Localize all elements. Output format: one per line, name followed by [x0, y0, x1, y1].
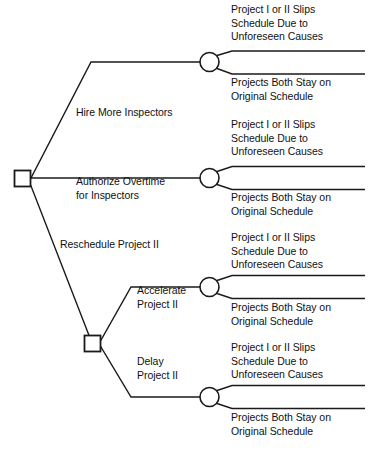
chance-node-3[interactable]	[200, 278, 219, 297]
outcome-line-stay-4	[217, 404, 365, 409]
chance-node-1[interactable]	[200, 53, 219, 72]
chance-node-4[interactable]	[200, 388, 219, 407]
outcome-label-stay-2: Projects Both Stay on Original Schedule	[231, 191, 331, 218]
outcome-label-slip-4: Project I or II Slips Schedule Due to Un…	[231, 341, 323, 382]
outcome-label-stay-4: Projects Both Stay on Original Schedule	[231, 411, 331, 438]
outcome-line-slip-4	[217, 386, 365, 391]
decision-tree-diagram: Project I or II Slips Schedule Due to Un…	[0, 0, 370, 451]
branch-label-authorize-overtime: Authorize Overtime for Inspectors	[76, 175, 165, 202]
branch-label-accelerate-project-ii: Accelerate Project II	[137, 284, 186, 311]
root-decision-node[interactable]	[15, 171, 31, 187]
outcome-label-slip-1: Project I or II Slips Schedule Due to Un…	[231, 3, 323, 44]
branch-label-hire-more-inspectors: Hire More Inspectors	[76, 106, 172, 120]
outcome-line-slip-2	[217, 167, 365, 172]
chance-node-2[interactable]	[200, 169, 219, 188]
branch-label-delay-project-ii: Delay Project II	[137, 355, 178, 382]
branch-line-reschedule-project-ii	[31, 186, 92, 343]
branch-label-reschedule-project-ii: Reschedule Project II	[60, 238, 159, 252]
outcome-line-stay-1	[217, 69, 365, 75]
outcome-line-slip-1	[217, 51, 365, 56]
second-decision-node[interactable]	[85, 336, 101, 352]
tree-graphics	[0, 0, 370, 451]
outcome-label-stay-1: Projects Both Stay on Original Schedule	[231, 76, 331, 103]
outcome-line-stay-2	[217, 185, 365, 190]
outcome-label-slip-2: Project I or II Slips Schedule Due to Un…	[231, 118, 323, 159]
outcome-label-slip-3: Project I or II Slips Schedule Due to Un…	[231, 231, 323, 272]
outcome-label-stay-3: Projects Both Stay on Original Schedule	[231, 301, 331, 328]
branch-line-hire-more-inspectors	[31, 62, 200, 178]
outcome-line-slip-3	[217, 276, 365, 281]
outcome-line-stay-3	[217, 294, 365, 299]
